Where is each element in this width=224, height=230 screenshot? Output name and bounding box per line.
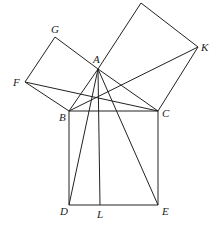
square-bc <box>69 111 158 205</box>
line-kb <box>69 47 198 111</box>
label-f: F <box>12 76 20 88</box>
label-e: E <box>161 205 169 217</box>
label-d: D <box>59 205 68 217</box>
label-g: G <box>51 23 59 35</box>
square-ac <box>98 3 198 111</box>
label-k: K <box>200 41 209 53</box>
label-b: B <box>59 111 66 123</box>
label-l: L <box>96 208 103 220</box>
pythagorean-diagram: A B C D E F G K L <box>0 0 224 230</box>
square-ab <box>25 37 98 111</box>
line-al <box>98 69 100 205</box>
label-c: C <box>162 107 170 119</box>
label-a: A <box>92 53 100 65</box>
